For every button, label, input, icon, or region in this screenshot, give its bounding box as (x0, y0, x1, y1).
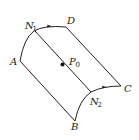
label-D: D (66, 15, 75, 26)
edge-A-B (20, 61, 75, 121)
label-B: B (70, 121, 78, 132)
point-P0-dot (61, 63, 65, 67)
label-N1-sub: 1 (33, 25, 37, 33)
label-P0-sub: 0 (76, 61, 80, 69)
edge-N1-N2 (35, 31, 91, 92)
label-A: A (9, 56, 17, 67)
label-N2-sub: 2 (98, 101, 102, 109)
label-C: C (124, 83, 132, 94)
surface-diagram: A B C D N 1 N 2 P 0 (0, 0, 139, 140)
edge-arc-A-D (20, 27, 66, 62)
